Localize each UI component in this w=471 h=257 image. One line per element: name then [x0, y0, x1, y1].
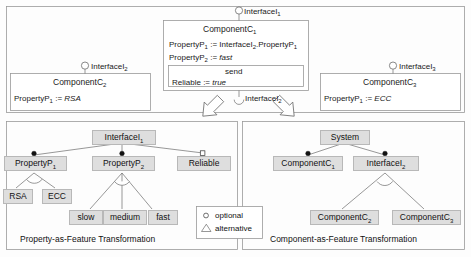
- feature-node-componentc3[interactable]: ComponentC3: [392, 210, 461, 225]
- feature-node-componentc2[interactable]: ComponentC2: [310, 210, 379, 225]
- legend-label-alternative: alternative: [215, 224, 252, 233]
- right-component-property-1: PropertyP1 := ECC: [324, 95, 391, 103]
- feature-node-fast[interactable]: fast: [148, 210, 178, 225]
- right-panel-caption: Component-as-Feature Transformation: [270, 234, 417, 244]
- feature-node-slow[interactable]: slow: [69, 210, 103, 225]
- feature-node-medium[interactable]: medium: [103, 210, 147, 225]
- feature-node-interfacei1[interactable]: InterfaceI1: [92, 130, 156, 145]
- left-component-property-1: PropertyP1 := RSA: [14, 95, 81, 103]
- right-tree-group-i2: [342, 173, 424, 209]
- top-interface-lollipop: [235, 7, 242, 21]
- center-component-property-2: PropertyP2 := fast: [169, 54, 232, 62]
- feature-node-reliable[interactable]: Reliable: [177, 156, 231, 171]
- feature-node-propertyp2[interactable]: PropertyP2: [92, 156, 155, 171]
- required-interface-label: InterfaceI2: [245, 95, 282, 103]
- diagram-canvas: .pn { fill:none; stroke:#9a9a9a; stroke-…: [0, 0, 471, 257]
- transformation-arrow-left: [196, 92, 226, 122]
- feature-node-componentc1[interactable]: ComponentC1: [273, 156, 343, 171]
- left-tree-group-p1: [16, 173, 55, 188]
- feature-node-rsa[interactable]: RSA: [3, 189, 33, 204]
- legend-label-optional: optional: [215, 211, 243, 220]
- feature-node-interfacei2[interactable]: InterfaceI2: [353, 156, 419, 171]
- required-interface-socket: [234, 91, 244, 105]
- right-interface-lollipop: [389, 62, 396, 74]
- right-interface-label: InterfaceI3: [399, 63, 436, 71]
- left-interface-label: InterfaceI2: [91, 63, 128, 71]
- center-component-name: ComponentC1: [203, 25, 256, 34]
- center-component-operation-name: send: [225, 68, 242, 76]
- feature-node-system[interactable]: System: [320, 130, 370, 145]
- feature-node-ecc[interactable]: ECC: [42, 189, 72, 204]
- left-interface-lollipop: [81, 62, 88, 74]
- left-component-name: ComponentC2: [53, 78, 106, 87]
- top-interface-label: InterfaceI1: [244, 8, 281, 16]
- left-tree-group-p2: [90, 173, 152, 209]
- right-component-name: ComponentC3: [363, 78, 416, 87]
- feature-node-propertyp1[interactable]: PropertyP1: [4, 156, 67, 171]
- legend-alternative-triangle-icon: [202, 224, 212, 231]
- legend-optional-circle-icon: [204, 213, 209, 218]
- center-component-operation-property: Reliable := true: [172, 79, 226, 87]
- left-panel-caption: Property-as-Feature Transformation: [20, 234, 155, 244]
- optional-marker-reliable: [200, 151, 205, 156]
- center-component-property-1: PropertyP1 := InterfaceI2.PropertyP1: [169, 41, 297, 49]
